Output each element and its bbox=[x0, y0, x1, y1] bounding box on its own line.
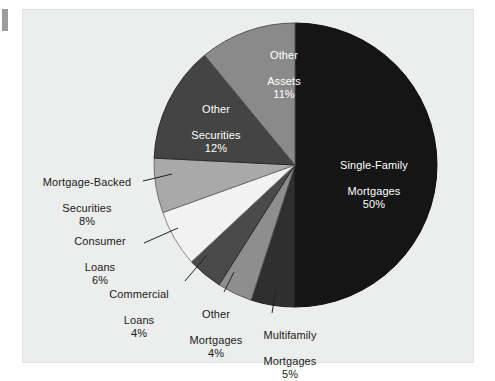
slice-label-line2: Securities bbox=[191, 129, 240, 141]
slice-label-line2: Mortgages bbox=[264, 355, 317, 367]
slice-label-multifamily-mortgages: Multifamily Mortgages 5% bbox=[245, 316, 335, 381]
slice-percent: 5% bbox=[245, 368, 335, 381]
slice-label-single-family-mortgages: Single-Family Mortgages 50% bbox=[322, 146, 426, 224]
slice-label-line2: Loans bbox=[124, 314, 154, 326]
scan-edge-artifact bbox=[2, 9, 8, 31]
slice-percent: 12% bbox=[176, 142, 256, 155]
slice-label-line1: Commercial bbox=[109, 288, 169, 300]
slice-label-line1: Mortgage-Backed bbox=[43, 176, 131, 188]
slice-label-line1: Other bbox=[270, 49, 298, 61]
slice-label-line2: Loans bbox=[85, 261, 115, 273]
chart-page: Single-Family Mortgages 50% Other Assets… bbox=[0, 0, 495, 381]
slice-percent: 4% bbox=[97, 327, 181, 340]
slice-percent: 50% bbox=[322, 198, 426, 211]
slice-label-line2: Mortgages bbox=[190, 334, 243, 346]
slice-percent: 11% bbox=[247, 88, 321, 101]
slice-label-line1: Consumer bbox=[74, 235, 126, 247]
slice-label-other-assets: Other Assets 11% bbox=[247, 36, 321, 114]
slice-label-line1: Other bbox=[202, 103, 230, 115]
slice-label-line2: Mortgages bbox=[348, 185, 401, 197]
slice-label-other-securities: Other Securities 12% bbox=[176, 90, 256, 168]
slice-label-line2: Assets bbox=[267, 75, 301, 87]
slice-label-line1: Single-Family bbox=[340, 159, 408, 171]
slice-label-commercial-loans: Commercial Loans 4% bbox=[97, 275, 181, 353]
slice-label-line1: Multifamily bbox=[263, 329, 316, 341]
slice-label-line1: Other bbox=[202, 308, 230, 320]
slice-label-line2: Securities bbox=[62, 202, 111, 214]
